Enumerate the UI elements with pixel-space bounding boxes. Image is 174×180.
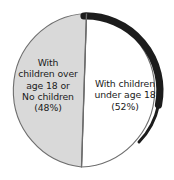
pie-chart-graphic	[0, 0, 174, 180]
pie-chart: With children over age 18 or No children…	[0, 0, 174, 180]
pie-slice-with-children-over-age-18-or-no-children	[13, 14, 86, 168]
pie-slice-with-children-under-age-18	[82, 14, 155, 168]
